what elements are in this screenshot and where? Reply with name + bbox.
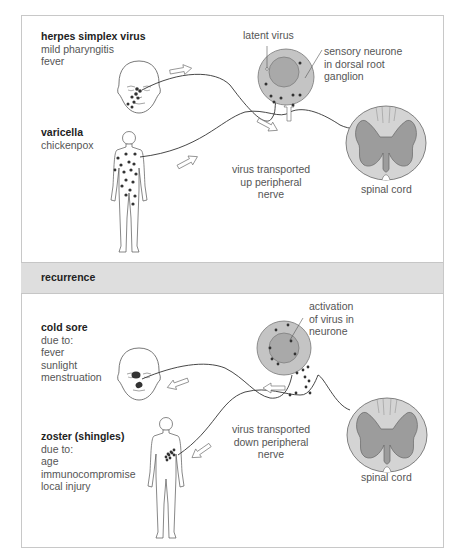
label-line: up peripheral bbox=[240, 176, 301, 188]
cold-sore-title: cold sore bbox=[41, 321, 102, 334]
label-line: in dorsal root bbox=[324, 58, 385, 70]
cause-line: due to: bbox=[41, 334, 73, 346]
cause-line: fever bbox=[41, 346, 64, 358]
label-line: of virus in bbox=[309, 313, 354, 325]
spinal-cord-bottom bbox=[347, 398, 427, 472]
spinal-cord-label-top: spinal cord bbox=[361, 183, 412, 196]
label-line: ganglion bbox=[324, 70, 364, 82]
zoster-label: zoster (shingles) due to: age immunocomp… bbox=[41, 430, 136, 493]
cause-line: menstruation bbox=[41, 371, 102, 383]
label-line: down peripheral bbox=[234, 436, 309, 448]
transport-down-label: virus transported down peripheral nerve bbox=[228, 423, 314, 461]
cold-sore-label: cold sore due to: fever sunlight menstru… bbox=[41, 321, 102, 384]
label-line: nerve bbox=[258, 448, 284, 460]
sensory-neurone-label: sensory neurone in dorsal root ganglion bbox=[324, 45, 402, 83]
zoster-title: zoster (shingles) bbox=[41, 430, 136, 443]
herpes-simplex-label: herpes simplex virus mild pharyngitis fe… bbox=[41, 30, 145, 68]
cause-line: sunlight bbox=[41, 359, 77, 371]
herpes-simplex-title: herpes simplex virus bbox=[41, 30, 145, 43]
sensory-neurone-bottom bbox=[257, 318, 311, 396]
face-illustration-top bbox=[118, 61, 161, 113]
cause-line: due to: bbox=[41, 443, 73, 455]
transport-up-label: virus transported up peripheral nerve bbox=[230, 163, 312, 201]
varicella-title: varicella bbox=[41, 126, 94, 139]
symptom-line: fever bbox=[41, 55, 64, 67]
label-line: virus transported bbox=[232, 423, 310, 435]
body-illustration-zoster bbox=[148, 418, 184, 539]
cause-line: age bbox=[41, 455, 59, 467]
label-line: virus transported bbox=[232, 163, 310, 175]
label-line: neurone bbox=[309, 325, 348, 337]
label-line: sensory neurone bbox=[324, 45, 402, 57]
spinal-cord-top bbox=[346, 106, 426, 180]
label-line: nerve bbox=[258, 188, 284, 200]
label-line: activation bbox=[309, 300, 353, 312]
body-illustration-varicella bbox=[111, 132, 147, 253]
varicella-label: varicella chickenpox bbox=[41, 126, 94, 151]
symptom-line: mild pharyngitis bbox=[41, 43, 114, 55]
spinal-cord-label-bottom: spinal cord bbox=[361, 471, 412, 484]
activation-label: activation of virus in neurone bbox=[309, 300, 354, 338]
cause-line: immunocompromise bbox=[41, 468, 136, 480]
symptom-line: chickenpox bbox=[41, 139, 94, 151]
sensory-neurone-top bbox=[258, 46, 322, 107]
cause-line: local injury bbox=[41, 480, 91, 492]
latent-virus-label: latent virus bbox=[243, 29, 294, 42]
